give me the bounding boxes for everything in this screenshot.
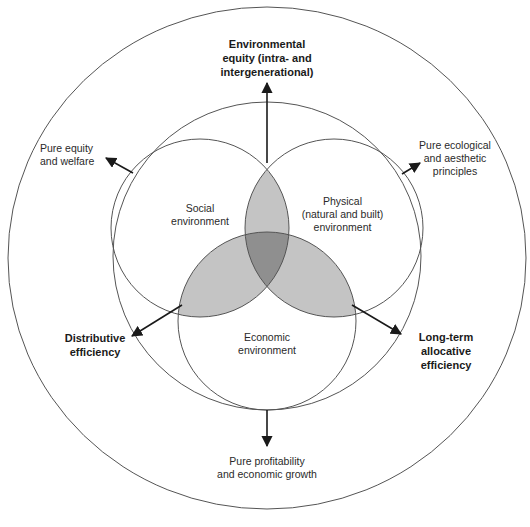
arrow-lower-right-icon — [352, 305, 401, 334]
label-line: equity (intra- and — [207, 51, 327, 65]
label-line: Economic — [227, 331, 307, 344]
label-line: Distributive — [50, 331, 140, 345]
label-line: allocative — [406, 344, 486, 358]
label-line: principles — [410, 165, 500, 178]
economic-environment-label: Economic environment — [227, 331, 307, 357]
long-term-allocative-efficiency-label: Long-term allocative efficiency — [406, 330, 486, 372]
environmental-equity-label: Environmental equity (intra- and interge… — [207, 37, 327, 79]
label-line: and economic growth — [207, 468, 327, 481]
label-line: (natural and built) — [300, 208, 385, 221]
label-line: Long-term — [406, 330, 486, 344]
label-line: Social — [160, 202, 240, 215]
pure-profitability-label: Pure profitability and economic growth — [207, 455, 327, 481]
label-line: intergenerational) — [207, 65, 327, 79]
label-line: environment — [227, 344, 307, 357]
label-line: Pure equity — [40, 142, 110, 155]
pure-equity-welfare-label: Pure equity and welfare — [40, 142, 110, 168]
label-line: Environmental — [207, 37, 327, 51]
pure-ecological-label: Pure ecological and aesthetic principles — [410, 139, 500, 178]
label-line: and welfare — [40, 155, 110, 168]
label-line: Pure ecological — [410, 139, 500, 152]
social-environment-label: Social environment — [160, 202, 240, 228]
label-line: Pure profitability — [207, 455, 327, 468]
label-line: efficiency — [50, 345, 140, 359]
label-line: environment — [300, 221, 385, 234]
physical-environment-label: Physical (natural and built) environment — [300, 195, 385, 234]
label-line: efficiency — [406, 358, 486, 372]
arrow-upper-left-icon — [106, 158, 133, 173]
label-line: environment — [160, 215, 240, 228]
distributive-efficiency-label: Distributive efficiency — [50, 331, 140, 359]
label-line: Physical — [300, 195, 385, 208]
label-line: and aesthetic — [410, 152, 500, 165]
venn-diagram — [0, 0, 530, 527]
